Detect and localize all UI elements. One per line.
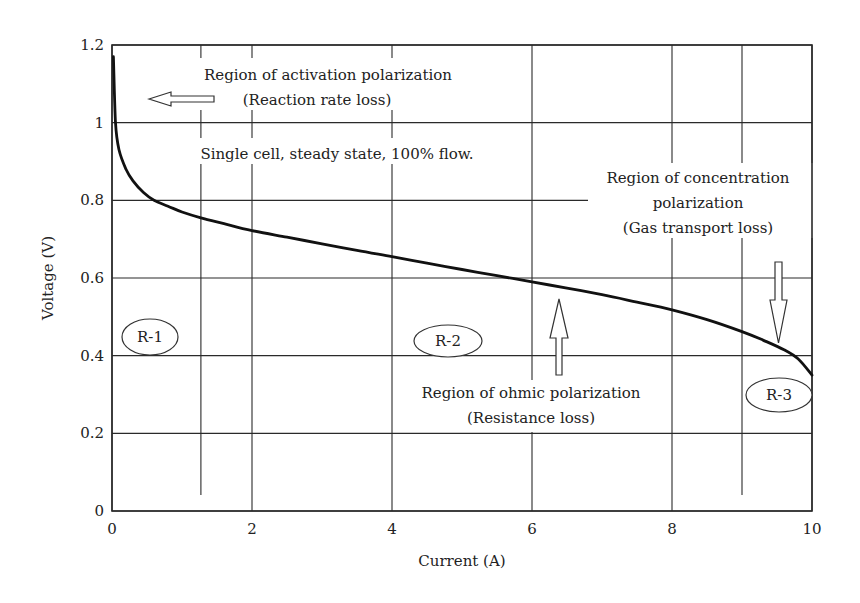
x-tick-label: 4	[387, 520, 397, 538]
y-tick-label: 0	[94, 502, 104, 520]
annotation-masks	[170, 58, 816, 432]
x-axis-label: Current (A)	[418, 552, 505, 570]
down-arrow-icon	[770, 262, 787, 343]
y-axis-label: Voltage (V)	[39, 236, 57, 321]
y-tick-label: 1	[94, 114, 104, 132]
y-tick-label: 1.2	[80, 36, 104, 54]
polarization-chart: 00.20.40.60.811.2 0246810 R-1 R-2 R-3 Re…	[0, 0, 860, 603]
region-label-r1: R-1	[122, 319, 178, 355]
y-tick-label: 0.8	[80, 191, 104, 209]
ohmic-subtitle: (Resistance loss)	[467, 409, 595, 427]
activation-title: Region of activation polarization	[204, 66, 452, 84]
x-tick-label: 8	[667, 520, 677, 538]
conditions-note: Single cell, steady state, 100% flow.	[200, 145, 473, 163]
x-tick-label: 6	[527, 520, 537, 538]
r3-text: R-3	[766, 386, 792, 404]
ohmic-title: Region of ohmic polarization	[422, 384, 641, 402]
y-tick-labels: 00.20.40.60.811.2	[80, 36, 104, 520]
x-tick-labels: 0246810	[107, 520, 821, 538]
x-tick-label: 2	[247, 520, 257, 538]
concentration-subtitle: (Gas transport loss)	[623, 219, 773, 237]
grid-lines	[112, 45, 812, 511]
region-label-r3: R-3	[746, 378, 812, 412]
r1-text: R-1	[137, 328, 163, 346]
r2-text: R-2	[435, 332, 461, 350]
x-tick-label: 0	[107, 520, 117, 538]
up-arrow-icon	[550, 299, 568, 375]
y-tick-label: 0.2	[80, 424, 104, 442]
concentration-title-1: Region of concentration	[606, 169, 789, 187]
concentration-title-2: polarization	[653, 194, 744, 212]
y-tick-label: 0.4	[80, 347, 104, 365]
y-tick-label: 0.6	[80, 269, 104, 287]
x-tick-label: 10	[802, 520, 821, 538]
region-label-r2: R-2	[414, 325, 482, 357]
activation-subtitle: (Reaction rate loss)	[243, 91, 392, 109]
